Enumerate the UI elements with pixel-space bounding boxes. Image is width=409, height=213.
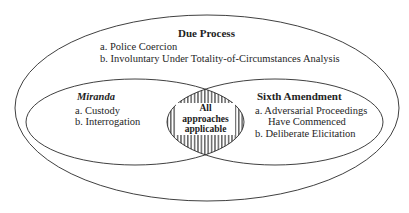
miranda-item-b: b. Interrogation: [75, 116, 140, 128]
venn-diagram: Due Process a. Police Coercion b. Involu…: [0, 0, 409, 213]
due-process-item-b: b. Involuntary Under Totality-of-Circums…: [100, 53, 340, 65]
miranda-title: Miranda: [77, 91, 115, 103]
sixth-amendment-title: Sixth Amendment: [257, 90, 342, 102]
sixth-amendment-item-b: b. Deliberate Elicitation: [255, 128, 356, 140]
intersection-line-3: applicable: [177, 124, 234, 135]
intersection-line-1: All: [177, 103, 234, 114]
due-process-title: Due Process: [178, 27, 235, 39]
due-process-item-a: a. Police Coercion: [100, 41, 177, 53]
intersection-label: All approaches applicable: [176, 103, 235, 135]
intersection-line-2: approaches: [177, 114, 234, 125]
sixth-amendment-item-a-cont: Have Commenced: [268, 116, 346, 128]
